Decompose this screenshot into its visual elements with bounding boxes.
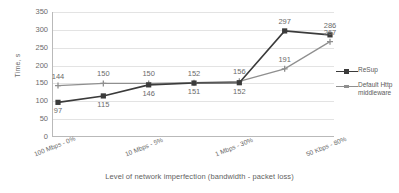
x-tick-label-1: 10 Mbps - 5% <box>124 136 164 158</box>
y-tick-0: 0 <box>44 133 48 141</box>
legend-marker-square-icon <box>336 67 358 76</box>
legend-label-resup: ReSup <box>358 66 378 74</box>
y-tick-250: 250 <box>35 44 48 52</box>
data-label-default-http-middleware-0: 144 <box>52 73 65 81</box>
x-axis-title: Level of network imperfection (bandwidth… <box>0 172 399 181</box>
x-tick-label-2: 1 Mbps - 30% <box>214 136 254 158</box>
data-label-default-http-middleware-3: 152 <box>188 70 201 78</box>
y-tick-150: 150 <box>35 79 48 87</box>
y-tick-300: 300 <box>35 26 48 34</box>
data-label-default-http-middleware-5: 191 <box>278 56 291 64</box>
y-tick-200: 200 <box>35 62 48 70</box>
legend-item-resup[interactable]: ReSup <box>336 66 399 76</box>
data-label-resup-5: 297 <box>278 18 291 26</box>
data-label-resup-0: 97 <box>54 107 62 115</box>
y-axis-tick-labels: 350 300 250 200 150 100 50 0 <box>26 0 48 193</box>
legend-item-default-http[interactable]: Default Http middleware <box>336 81 399 97</box>
legend-label-default-http: Default Http middleware <box>358 81 399 97</box>
chart-legend: ReSup Default Http middleware <box>336 66 399 102</box>
y-axis-title: Time, s <box>14 36 21 96</box>
legend-marker-cross-icon <box>336 82 358 91</box>
data-label-default-http-middleware-6: 267 <box>324 29 337 37</box>
data-label-resup-4: 152 <box>233 88 246 96</box>
data-label-default-http-middleware-4: 156 <box>233 68 246 76</box>
y-tick-100: 100 <box>35 97 48 105</box>
data-label-resup-2: 146 <box>142 90 155 98</box>
x-axis-tick-labels: 100 Mbps - 0%10 Mbps - 5%1 Mbps - 30%50 … <box>52 139 334 169</box>
x-tick-label-3: 50 Kbps - 80% <box>305 135 347 157</box>
data-label-resup-3: 151 <box>188 88 201 96</box>
data-label-default-http-middleware-2: 150 <box>142 70 155 78</box>
data-label-resup-1: 115 <box>97 101 109 109</box>
y-tick-350: 350 <box>35 8 48 16</box>
y-tick-50: 50 <box>40 115 48 123</box>
chart-figure: Time, s 350 300 250 200 150 100 50 0 971… <box>0 0 399 193</box>
plot-area: 9711514615115229728614415015015215619126… <box>52 12 334 137</box>
data-label-default-http-middleware-1: 150 <box>97 70 110 78</box>
